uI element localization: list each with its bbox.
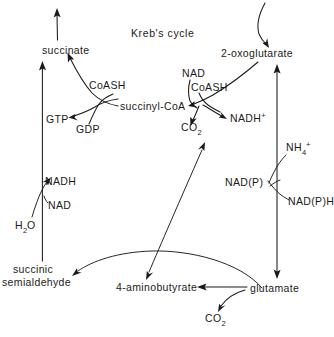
- label-nadp: NAD(P): [225, 176, 263, 188]
- label-succinic-semialdehyde-line1: succinic: [13, 263, 53, 275]
- arrow-glutamate-to-co2: [218, 290, 245, 312]
- label-glutamate: glutamate: [250, 282, 299, 294]
- arrow-coash-to-gtp: [69, 99, 119, 120]
- label-coash-right: CoASH: [191, 81, 228, 93]
- diagram-title: Kreb's cycle: [131, 27, 194, 39]
- arrow-glutamate-to-4-aminobutyrate: [197, 283, 247, 290]
- arrow-left-vertical: [39, 61, 46, 261]
- label-nh4-plus: NH4+: [286, 140, 311, 157]
- label-gtp: GTP: [46, 113, 69, 125]
- arrow-succinate-out: [54, 8, 61, 40]
- label-2-oxoglutarate: 2-oxoglutarate: [221, 47, 293, 59]
- label-nadh-plus: NADH+: [230, 111, 266, 124]
- label-nad-top: NAD: [182, 67, 205, 79]
- label-coash-left: CoASH: [89, 79, 126, 91]
- label-co2-lower: CO2: [205, 312, 226, 328]
- pathway-canvas: Kreb's cycle succinate 2-oxoglutarate Co…: [0, 0, 334, 337]
- arrow-gdp-in: [89, 94, 113, 124]
- label-4-aminobutyrate: 4-aminobutyrate: [116, 281, 197, 293]
- label-nad-left: NAD: [48, 199, 71, 211]
- label-co2-upper: CO2: [181, 121, 202, 137]
- label-h2o: H2O: [15, 219, 36, 235]
- arrow-diagonal-double: [146, 142, 205, 280]
- pathway-diagram: Kreb's cycle succinate 2-oxoglutarate Co…: [0, 0, 334, 337]
- label-succinyl-coa: succinyl-CoA: [120, 100, 185, 112]
- arrow-nadp-cross: [268, 180, 289, 200]
- label-nadph: NAD(P)H: [288, 195, 334, 207]
- label-succinate: succinate: [42, 44, 90, 56]
- arrow-into-2-oxoglutarate: [258, 3, 269, 48]
- label-gdp: GDP: [76, 123, 100, 135]
- arrow-node-to-nadh: [203, 105, 227, 119]
- label-nadh-left: NADH: [45, 175, 76, 187]
- label-succinic-semialdehyde-line2: semialdehyde: [2, 276, 71, 288]
